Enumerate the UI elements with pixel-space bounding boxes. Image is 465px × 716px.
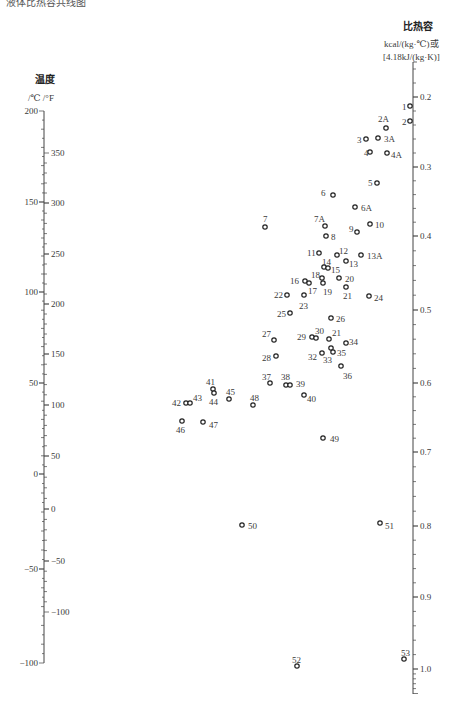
celsius-tick-label: 50 [29, 378, 38, 388]
liquid-point-label: 13A [367, 251, 383, 261]
specific-heat-tick-label: 0.9 [420, 592, 431, 602]
liquid-point-49 [321, 436, 325, 440]
fahrenheit-tick-label: 100 [51, 400, 65, 410]
specific-heat-tick-label: 0.8 [420, 521, 431, 531]
specific-heat-tick-label: 0.7 [420, 447, 431, 457]
liquid-point-17 [307, 281, 311, 285]
liquid-point-label: 17 [308, 286, 317, 296]
celsius-tick-label: 200 [25, 106, 39, 116]
liquid-point-label: 1 [402, 102, 407, 112]
liquid-point-label: 4A [391, 150, 402, 160]
celsius-tick-label: 150 [25, 197, 39, 207]
liquid-point-3A [376, 136, 380, 140]
liquid-point-43 [188, 401, 192, 405]
liquid-point-4A [385, 151, 389, 155]
fahrenheit-tick-label: 0 [51, 504, 56, 514]
liquid-point-23 [302, 293, 306, 297]
liquid-point-label: 38 [281, 372, 290, 382]
fahrenheit-tick-label: −50 [51, 556, 65, 566]
liquid-point-label: 12 [339, 246, 348, 256]
liquid-point-6A [353, 205, 357, 209]
liquid-point-label: 36 [343, 371, 352, 381]
liquid-point-label: 9 [349, 224, 354, 234]
liquid-point-label: 37 [262, 372, 271, 382]
liquid-point-21 [344, 285, 348, 289]
fahrenheit-tick-label: −100 [51, 607, 70, 617]
liquid-point-18 [320, 276, 324, 280]
liquid-point-label: 25 [277, 309, 286, 319]
liquid-point-30 [314, 336, 318, 340]
liquid-point-label: 24 [374, 293, 383, 303]
liquid-point-46 [180, 419, 184, 423]
liquid-point-19 [321, 281, 325, 285]
liquid-point-label: 35 [337, 348, 346, 358]
liquid-point-47 [201, 420, 205, 424]
liquid-point-25 [288, 311, 292, 315]
liquid-point-label: 53 [401, 648, 410, 658]
liquid-point-label: 6A [361, 203, 372, 213]
liquid-point-label: 43 [193, 393, 202, 403]
liquid-point-34 [344, 341, 348, 345]
liquid-point-label: 11 [307, 248, 316, 258]
liquid-point-39 [288, 383, 292, 387]
liquid-point-label: 21 [343, 291, 352, 301]
celsius-tick-label: 100 [25, 287, 39, 297]
liquid-point-label: 47 [209, 420, 218, 430]
liquid-point-28 [274, 354, 278, 358]
liquid-point-label: 21 [332, 328, 341, 338]
liquid-point-label: 34 [349, 337, 358, 347]
liquid-point-51 [378, 521, 382, 525]
liquid-point-label: 13 [349, 259, 358, 269]
liquid-point-label: 26 [336, 314, 345, 324]
liquid-point-label: 32 [308, 352, 317, 362]
liquid-point-label: 40 [307, 394, 316, 404]
fahrenheit-tick-label: 300 [51, 198, 65, 208]
specific-heat-tick-label: 0.4 [420, 231, 431, 241]
liquid-point-11 [317, 251, 321, 255]
liquid-point-7 [263, 225, 267, 229]
liquid-point-label: 2 [402, 117, 407, 127]
liquid-point-13 [344, 259, 348, 263]
liquid-point-label: 3 [357, 135, 362, 145]
celsius-tick-label: −50 [24, 564, 38, 574]
fahrenheit-tick-label: 350 [51, 148, 65, 158]
liquid-point-label: 20 [345, 274, 354, 284]
liquid-point-label: 23 [299, 301, 308, 311]
liquid-point-36 [339, 364, 343, 368]
liquid-point-26 [329, 316, 333, 320]
liquid-point-13A [359, 253, 363, 257]
fahrenheit-tick-label: 150 [51, 349, 65, 359]
liquid-point-24 [367, 294, 371, 298]
liquid-point-label: 48 [250, 393, 259, 403]
liquid-point-5 [375, 181, 379, 185]
specific-heat-tick-label: 0.6 [420, 378, 431, 388]
liquid-point-label: 10 [375, 220, 384, 230]
liquid-point-label: 46 [176, 425, 185, 435]
liquid-point-20 [337, 276, 341, 280]
liquid-point-label: 49 [330, 434, 339, 444]
liquid-point-2 [408, 119, 412, 123]
liquid-point-label: 14 [322, 257, 331, 267]
liquid-point-label: 2A [378, 114, 389, 124]
liquid-point-label: 27 [262, 329, 271, 339]
liquid-point-label: 7 [263, 214, 268, 224]
liquid-point-6 [331, 193, 335, 197]
liquid-point-2A [384, 126, 388, 130]
liquid-point-label: 29 [297, 332, 306, 342]
liquid-point-48 [251, 403, 255, 407]
liquid-point-label: 19 [323, 287, 332, 297]
liquid-point-label: 45 [226, 387, 235, 397]
liquid-point-label: 51 [385, 521, 394, 531]
liquid-point-label: 6 [321, 188, 326, 198]
liquid-point-50 [240, 523, 244, 527]
liquid-point-22 [285, 293, 289, 297]
specific-heat-tick-label: 0.3 [420, 162, 431, 172]
liquid-point-label: 3A [384, 134, 395, 144]
liquid-point-8 [324, 234, 328, 238]
liquid-point-label: 39 [296, 379, 305, 389]
liquid-point-label: 4 [364, 148, 369, 158]
liquid-point-3 [364, 137, 368, 141]
liquid-point-1 [408, 104, 412, 108]
liquid-point-label: 7A [314, 214, 325, 224]
liquid-point-44 [212, 391, 216, 395]
